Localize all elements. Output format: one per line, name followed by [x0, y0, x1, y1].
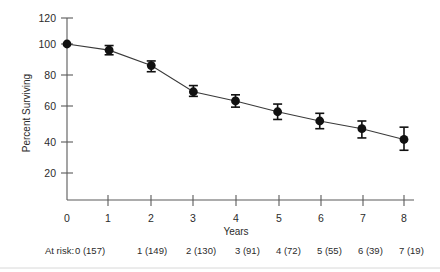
- y-axis-title: Percent Surviving: [21, 74, 32, 152]
- at-risk-4: 4 (72): [276, 245, 301, 256]
- at-risk-6: 6 (39): [358, 245, 383, 256]
- data-point-year-0: [63, 40, 72, 49]
- at-risk-row: At risk: 0 (157) 1 (149) 2 (130) 3 (91) …: [45, 245, 424, 256]
- x-tick-label-0: 0: [64, 212, 70, 224]
- data-point-year-6: [315, 117, 324, 126]
- y-tick-label-100: 100: [38, 38, 56, 50]
- x-axis-title: Years: [223, 226, 248, 237]
- at-risk-1: 1 (149): [137, 245, 167, 256]
- y-tick-label-120: 120: [38, 12, 56, 24]
- data-point-year-3: [189, 87, 198, 96]
- data-point-year-7: [357, 124, 366, 133]
- survival-series-line: [67, 44, 404, 139]
- at-risk-prefix: At risk:: [45, 245, 74, 256]
- x-axis-tick-labels: 0 1 2 3 4 5 6 7 8: [64, 212, 407, 224]
- x-tick-label-7: 7: [360, 212, 366, 224]
- x-tick-label-8: 8: [401, 212, 407, 224]
- x-tick-label-6: 6: [318, 212, 324, 224]
- error-bars-group: [105, 46, 409, 151]
- x-tick-label-1: 1: [105, 212, 111, 224]
- data-point-year-8: [400, 135, 409, 144]
- x-tick-label-2: 2: [148, 212, 154, 224]
- y-tick-label-60: 60: [44, 100, 56, 112]
- y-tick-label-20: 20: [44, 167, 56, 179]
- x-tick-label-4: 4: [233, 212, 239, 224]
- at-risk-3: 3 (91): [235, 245, 260, 256]
- data-point-year-2: [147, 61, 156, 70]
- x-tick-label-5: 5: [276, 212, 282, 224]
- chart-canvas: 120 100 80 60 40 20 Percent Surviving 0 …: [0, 0, 440, 272]
- survival-curve-figure: 120 100 80 60 40 20 Percent Surviving 0 …: [0, 0, 440, 272]
- y-tick-label-40: 40: [44, 136, 56, 148]
- at-risk-5: 5 (55): [317, 245, 342, 256]
- at-risk-2: 2 (130): [186, 245, 216, 256]
- data-point-year-4: [231, 97, 240, 106]
- at-risk-0: 0 (157): [75, 245, 105, 256]
- at-risk-7: 7 (19): [399, 245, 424, 256]
- x-tick-label-3: 3: [190, 212, 196, 224]
- y-axis-tick-labels: 120 100 80 60 40 20: [38, 12, 56, 179]
- data-point-year-5: [273, 107, 282, 116]
- y-tick-label-80: 80: [44, 69, 56, 81]
- data-point-year-1: [105, 46, 114, 55]
